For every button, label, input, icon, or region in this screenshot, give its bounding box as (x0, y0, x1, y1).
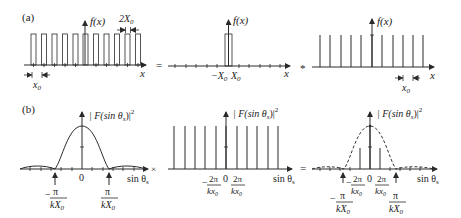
svg-text:π: π (105, 186, 110, 197)
zero-label: 0 (79, 172, 84, 183)
y-label: | F(sin θs)|2 (233, 106, 279, 121)
single-pulse-panel: f(x) x −X0 X0 (168, 14, 290, 83)
svg-text:kx0: kx0 (231, 186, 242, 197)
y-label: f(x) (90, 15, 106, 28)
x-label: sin θs (127, 173, 149, 186)
x-label: x (283, 67, 289, 79)
svg-text:kX0: kX0 (389, 203, 404, 216)
zero-label: 0 (223, 173, 228, 184)
x-label: sin θs (273, 173, 295, 186)
svg-text:kX0: kX0 (101, 199, 116, 212)
svg-text:2π: 2π (353, 174, 363, 184)
pos-spacing-label: 2π kx0 (231, 174, 245, 197)
equals-operator-2: = (300, 162, 306, 174)
zero-label: 0 (367, 173, 372, 184)
neg-spacing-label: − 2π kx0 (346, 174, 365, 197)
impulse-comb-panel: f(x) x x0 (312, 15, 435, 95)
pos-x0-label: X0 (230, 70, 241, 83)
neg-x0-label: −X0 (211, 70, 228, 83)
y-label: | F(sin θs)|2 (377, 106, 423, 121)
period-dimension: x0 (395, 75, 420, 95)
envelope-panel: | F(sin θs)|2 0 sin θs − π kX0 π kX0 (20, 108, 149, 212)
equals-operator: = (156, 59, 162, 71)
times-operator: × (151, 164, 156, 174)
envelope-curve-dashed (312, 126, 434, 169)
convolve-operator: * (300, 62, 306, 74)
svg-text:π: π (53, 186, 58, 197)
pos-first-zero-label: π kX0 (101, 186, 118, 212)
y-label: f(x) (233, 14, 249, 27)
pulses (31, 34, 141, 65)
svg-text:2π: 2π (377, 174, 387, 184)
svg-text:kx0: kx0 (351, 186, 362, 197)
y-label: | F(sin θs)|2 (89, 108, 135, 123)
svg-text:kx0: kx0 (375, 186, 386, 197)
svg-text:kX0: kX0 (50, 199, 65, 212)
pulse-width-dimension: 2X0 (117, 13, 139, 33)
svg-text:2X0: 2X0 (119, 13, 134, 26)
part-a-label: (a) (22, 11, 35, 24)
pos-spacing-label: 2π kx0 (375, 174, 389, 197)
period-dimension: x0 (24, 72, 50, 92)
svg-text:π: π (393, 190, 398, 201)
envelope-curve (20, 126, 146, 169)
y-label: f(x) (377, 15, 393, 28)
sampled-impulses (360, 125, 380, 169)
pos-first-zero-label: π kX0 (389, 190, 406, 216)
neg-spacing-label: − 2π kx0 (202, 174, 221, 197)
svg-text:π: π (340, 190, 345, 201)
x-label: sin θs (417, 173, 439, 186)
part-b-label: (b) (22, 103, 35, 116)
frequency-comb-panel: | F(sin θs)|2 sin θs 0 − 2π kx0 2π kx0 (168, 106, 295, 197)
impulses (174, 126, 278, 169)
svg-text:kX0: kX0 (336, 203, 351, 216)
pulse-train-panel: f(x) x 2X0 x0 (24, 13, 146, 92)
neg-first-zero-label: − π kX0 (45, 186, 67, 212)
impulses (320, 35, 423, 67)
svg-text:x0: x0 (401, 82, 410, 95)
x-label: x (139, 67, 145, 79)
x-label: x (429, 69, 435, 81)
svg-text:2π: 2π (209, 174, 219, 184)
svg-text:2π: 2π (233, 174, 243, 184)
neg-first-zero-label: − π kX0 (330, 190, 353, 216)
svg-text:kx0: kx0 (207, 186, 218, 197)
sampled-spectrum-panel: | F(sin θs)|2 sin θs 0 − 2π kx0 2π kx0 −… (312, 106, 439, 216)
svg-text:x0: x0 (32, 79, 41, 92)
fourier-diagram: (a) (b) f(x) x (0, 0, 461, 218)
